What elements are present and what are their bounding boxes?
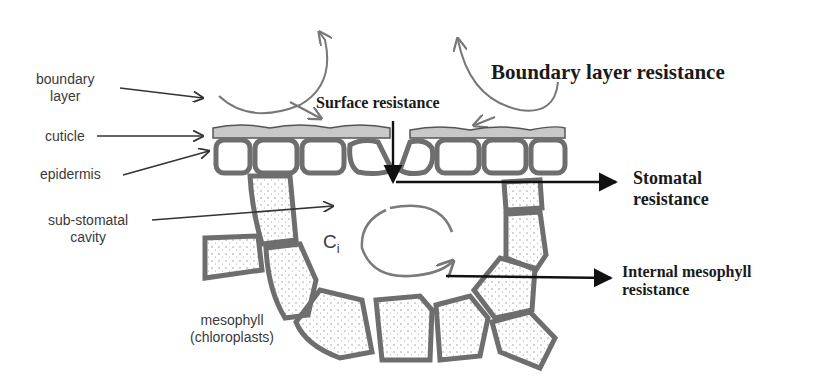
label-sub-stomatal-cavity: sub-stomatal cavity xyxy=(48,212,128,246)
label-epidermis: epidermis xyxy=(40,166,101,183)
stomatal-line2: resistance xyxy=(633,189,709,210)
ci-subscript: i xyxy=(337,241,340,256)
cuticle-layer xyxy=(213,125,565,138)
label-boundary-layer: boundary layer xyxy=(36,71,94,105)
mesophyll-line1: mesophyll xyxy=(190,312,274,329)
boundary-layer-line2: layer xyxy=(36,88,94,105)
label-boundary-layer-resistance: Boundary layer resistance xyxy=(491,60,725,84)
label-mesophyll: mesophyll (chloroplasts) xyxy=(190,312,274,346)
label-surface-resistance: Surface resistance xyxy=(316,94,440,112)
label-internal-mesophyll-resistance: Internal mesophyll resistance xyxy=(622,263,751,300)
boundary-layer-line1: boundary xyxy=(36,71,94,88)
internal-mesophyll-line2: resistance xyxy=(622,281,751,299)
internal-co2-concentration: Ci xyxy=(323,231,340,256)
cycling-flow-arrow xyxy=(362,210,452,276)
ci-symbol: C xyxy=(323,231,337,252)
epidermis-cells xyxy=(216,140,565,174)
label-cuticle: cuticle xyxy=(45,128,85,145)
sub-stomatal-line2: cavity xyxy=(48,229,128,246)
mesophyll-line2: (chloroplasts) xyxy=(190,329,274,346)
stomatal-line1: Stomatal xyxy=(633,168,709,189)
sub-stomatal-line1: sub-stomatal xyxy=(48,212,128,229)
label-stomatal-resistance: Stomatal resistance xyxy=(633,168,709,209)
leaf-resistance-diagram: boundary layer cuticle epidermis sub-sto… xyxy=(0,0,813,385)
internal-mesophyll-line1: Internal mesophyll xyxy=(622,263,751,281)
